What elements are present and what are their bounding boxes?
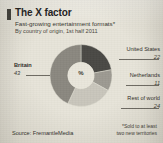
chart-subtitle-secondary: By country of origin, 1st half 2011 [15, 28, 98, 34]
callout-rest-of-world: Rest of world 24 [127, 95, 160, 110]
callout-value-united-states: 22 [126, 54, 160, 62]
callout-britain: Britain 43 [14, 62, 32, 77]
callout-label-netherlands: Netherlands [130, 72, 160, 80]
callout-value-netherlands: 11 [130, 80, 160, 88]
donut-chart: % [47, 40, 115, 111]
footnote: *Sold to at least two new territories [116, 123, 157, 137]
page-title: The X factor [15, 7, 72, 18]
callout-label-britain: Britain [14, 62, 32, 70]
callout-label-rest-of-world: Rest of world [127, 95, 160, 103]
source-line: Source: FremantleMedia [12, 130, 73, 136]
footnote-line-1: *Sold to at least [122, 123, 157, 129]
callout-netherlands: Netherlands 11 [130, 72, 160, 87]
title-accent-bar [7, 9, 11, 20]
donut-center-label: % [47, 70, 115, 76]
chart-clipping: The X factor Fast-growing entertainment … [0, 0, 163, 143]
callout-label-united-states: United States [126, 46, 160, 54]
callout-united-states: United States 22 [126, 46, 160, 61]
callout-value-rest-of-world: 24 [127, 103, 160, 111]
callout-value-britain: 43 [14, 70, 32, 78]
footnote-line-2: two new territories [116, 130, 157, 136]
chart-subtitle: Fast-growing entertainment formats* [15, 20, 115, 27]
